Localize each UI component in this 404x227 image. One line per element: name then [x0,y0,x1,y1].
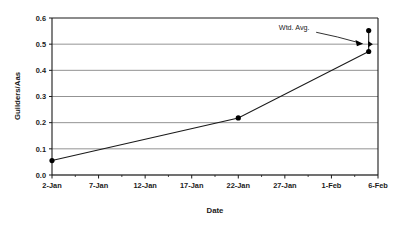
y-axis-title: Guilders/Aas [13,71,22,120]
data-point-marker [366,28,371,33]
line-chart: 0.00.10.20.30.40.50.6 2-Jan7-Jan12-Jan17… [0,0,404,227]
x-axis-tick-label: 7-Jan [89,181,109,190]
x-axis-tick-label: 22-Jan [227,181,251,190]
annotation-label: Wtd. Avg. [279,23,310,32]
x-axis-tick-label: 17-Jan [180,181,204,190]
data-point-marker [366,49,371,54]
y-axis-tick-label: 0.4 [36,66,47,75]
y-axis-tick-label: 0.2 [36,118,46,127]
y-axis-tick-label: 0.3 [36,92,46,101]
data-point-marker [236,115,241,120]
chart-container: 0.00.10.20.30.40.50.6 2-Jan7-Jan12-Jan17… [0,0,404,227]
y-axis-tick-label: 0.1 [36,145,46,154]
y-axis-tick-label: 0.0 [36,171,46,180]
y-axis-tick-label: 0.5 [36,40,46,49]
x-axis-tick-label: 27-Jan [273,181,297,190]
x-axis-tick-label: 2-Jan [42,181,62,190]
x-axis-tick-label: 6-Feb [368,181,388,190]
y-axis-tick-label: 0.6 [36,14,46,23]
data-point-marker [49,158,54,163]
x-axis-tick-label: 1-Feb [322,181,342,190]
x-axis-tick-label: 12-Jan [133,181,157,190]
x-axis-title: Date [207,206,225,215]
